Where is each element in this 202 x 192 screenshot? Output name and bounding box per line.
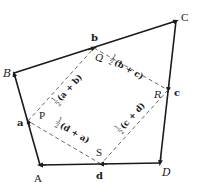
vertex-label-c: C bbox=[181, 11, 188, 23]
vertex-label-d: D bbox=[161, 166, 171, 179]
quadrilateral-diagram: A B C D a b c d P Q R S 1 2 (a + b) 1 2 … bbox=[0, 0, 202, 192]
expr-qr: 1 2 (b + c) bbox=[107, 52, 147, 83]
midpoint-label-p: P bbox=[39, 109, 45, 121]
expr-qr-text: (b + c) bbox=[112, 57, 145, 81]
midpoint-label-r: R bbox=[153, 89, 162, 100]
expr-sp: 1 2 (d + a) bbox=[53, 115, 93, 146]
edge-label-a: a bbox=[17, 117, 24, 128]
segment-rs bbox=[101, 90, 168, 164]
edge-label-c: c bbox=[174, 87, 180, 98]
edge-label-b: b bbox=[91, 32, 98, 43]
edge-bc bbox=[14, 21, 176, 73]
midpoint-label-s: S bbox=[96, 146, 102, 158]
expr-pq: 1 2 (a + b) bbox=[49, 70, 85, 108]
vertex-label-a: A bbox=[34, 172, 42, 184]
edge-label-d: d bbox=[96, 170, 103, 181]
expr-rs: 1 2 (c + d) bbox=[112, 98, 148, 135]
expr-pq-text: (a + b) bbox=[55, 72, 84, 103]
expr-rs-text: (c + d) bbox=[118, 100, 147, 131]
midpoint-label-q: Q bbox=[95, 52, 103, 63]
vertex-label-b: B bbox=[2, 67, 11, 80]
segment-pq bbox=[28, 48, 94, 121]
